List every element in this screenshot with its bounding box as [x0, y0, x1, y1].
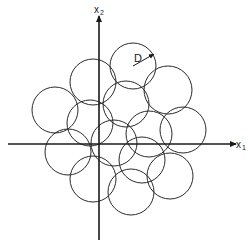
- circle: [70, 156, 116, 202]
- coverage-circles: [32, 43, 206, 215]
- circle: [126, 111, 172, 157]
- circle: [70, 59, 116, 105]
- circle: [91, 120, 137, 166]
- x2-axis-label: x2: [94, 4, 104, 16]
- circle: [160, 107, 206, 153]
- circle: [45, 129, 91, 175]
- diagram-canvas: D x2 x1: [0, 0, 248, 246]
- x1-axis-label: x1: [236, 139, 246, 151]
- radius-label: D: [134, 52, 142, 64]
- circle: [108, 169, 154, 215]
